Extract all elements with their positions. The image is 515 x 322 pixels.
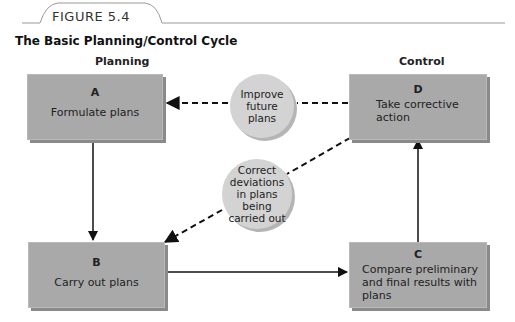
circle-improve-future-plans: Improve future plans [230,74,294,138]
box-d-text: Take corrective action [376,98,466,124]
dashed-correct-to-b [165,210,222,242]
box-d-take-corrective-action: D Take corrective action [349,74,487,140]
box-c-compare-results: C Compare preliminary and final results … [349,242,487,308]
box-c-text: Compare preliminary and final results wi… [362,263,482,302]
box-a-formulate-plans: A Formulate plans [27,74,163,140]
box-a-letter: A [28,86,162,99]
circle-correct-text: Correct deviations in plans being carrie… [226,164,288,224]
box-b-letter: B [29,256,164,269]
box-a-text: Formulate plans [51,106,140,119]
circle-improve-text: Improve future plans [237,88,287,124]
box-b-text: Carry out plans [54,276,138,289]
box-c-letter: C [362,248,486,261]
circle-correct-deviations: Correct deviations in plans being carrie… [222,159,292,229]
box-b-carry-out-plans: B Carry out plans [28,242,165,308]
box-d-letter: D [376,83,486,96]
dashed-d-to-correct [287,138,350,174]
